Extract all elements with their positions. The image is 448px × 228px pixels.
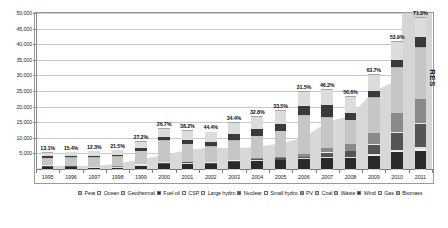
bar-segment	[228, 123, 240, 134]
bar-group[interactable]: 12.3%	[88, 151, 100, 169]
legend-item[interactable]: Waste	[334, 189, 355, 197]
x-tick-mark	[222, 169, 223, 173]
bar-group[interactable]: 26.7%	[158, 128, 170, 169]
bar-group[interactable]: 63.7%	[368, 74, 380, 169]
bar-group[interactable]: 56.6%	[345, 96, 357, 169]
legend-item[interactable]: Peat	[78, 189, 95, 197]
y-tick-label: 10,000	[0, 135, 32, 141]
x-tick-label: 2002	[205, 174, 217, 180]
x-tick-label: 2009	[368, 174, 380, 180]
legend-swatch-icon	[157, 191, 161, 195]
bar-percent-label: 53.9%	[390, 34, 405, 40]
bar-segment	[298, 92, 310, 106]
x-tick-mark	[176, 169, 177, 173]
chart-root: 5,00010,00015,00020,00025,00030,00035,00…	[0, 0, 448, 228]
bar-group[interactable]: 38.2%	[182, 130, 194, 169]
bar-segment	[158, 129, 170, 137]
legend-item[interactable]: Wind	[357, 189, 375, 197]
x-tick-label: 2010	[391, 174, 403, 180]
legend-label: CSP	[188, 190, 199, 196]
bar-percent-label: 26.7%	[157, 121, 172, 127]
legend-item[interactable]: Large hydro	[201, 189, 235, 197]
bar-group[interactable]: 53.9%	[391, 41, 403, 169]
legend-label: Waste	[341, 190, 356, 196]
x-axis-line	[36, 169, 432, 170]
x-tick-label: 2011	[415, 174, 426, 180]
bar-segment	[321, 118, 333, 149]
bar-segment	[275, 160, 287, 168]
legend-item[interactable]: Biomass	[396, 189, 422, 197]
bar-group[interactable]: 13.1%	[42, 152, 54, 169]
legend-item[interactable]: Gas	[378, 189, 394, 197]
x-tick-label: 2007	[321, 174, 333, 180]
legend-item[interactable]: Coal	[315, 189, 332, 197]
x-tick-label: 1997	[88, 174, 100, 180]
bar-segment	[321, 158, 333, 169]
legend-label: Coal	[322, 190, 333, 196]
bar-segment	[368, 133, 380, 144]
bar-segment	[135, 151, 147, 164]
bar-segment	[391, 133, 403, 150]
legend-swatch-icon	[182, 191, 186, 195]
bar-percent-label: 71.3%	[413, 10, 428, 16]
y-tick-label: 5,000	[0, 150, 32, 156]
bar-segment	[205, 132, 217, 142]
bar-percent-label: 12.3%	[87, 144, 102, 150]
bar-group[interactable]: 34.4%	[228, 122, 240, 169]
legend-label: Nuclear	[244, 190, 262, 196]
bar-segment	[415, 48, 427, 99]
legend-swatch-icon	[396, 191, 400, 195]
bar-segment	[345, 158, 357, 169]
bar-segment	[415, 37, 427, 47]
x-tick-mark	[385, 169, 386, 173]
legend-label: Small hydro	[270, 190, 297, 196]
x-tick-label: 1999	[135, 174, 147, 180]
legend-label: Peat	[85, 190, 96, 196]
x-tick-label: 1996	[65, 174, 77, 180]
legend-item[interactable]: Ocean	[97, 189, 119, 197]
bar-segment	[391, 60, 403, 67]
bar-percent-label: 27.2%	[134, 134, 149, 140]
legend-swatch-icon	[334, 191, 338, 195]
bar-group[interactable]: 21.5%	[112, 150, 124, 169]
bar-percent-label: 38.2%	[180, 123, 195, 129]
legend-item[interactable]: Small hydro	[264, 189, 298, 197]
x-tick-mark	[59, 169, 60, 173]
legend-item[interactable]: Geothermal	[121, 189, 155, 197]
chart-legend: PeatOceanGeothermalFuel oilCSPLarge hydr…	[78, 189, 408, 197]
y-tick-label: 25,000	[0, 88, 32, 94]
bar-segment	[368, 156, 380, 169]
x-tick-mark	[409, 169, 410, 173]
y-tick-label: 30,000	[0, 72, 32, 78]
legend-item[interactable]: CSP	[182, 189, 199, 197]
x-tick-mark	[339, 169, 340, 173]
bar-group[interactable]: 15.4%	[65, 152, 77, 169]
bar-segment	[182, 131, 194, 140]
x-tick-label: 2003	[228, 174, 240, 180]
bar-segment	[298, 116, 310, 154]
x-tick-label: 2004	[251, 174, 263, 180]
bar-group[interactable]: 27.2%	[135, 141, 147, 169]
bar-group[interactable]: 71.3%	[415, 17, 427, 169]
bar-group[interactable]: 46.2%	[321, 89, 333, 169]
bar-group[interactable]: 32.8%	[251, 116, 263, 169]
x-tick-label: 2001	[182, 174, 194, 180]
bar-segment	[228, 141, 240, 160]
legend-swatch-icon	[378, 191, 382, 195]
bar-segment	[368, 75, 380, 92]
x-tick-mark	[83, 169, 84, 173]
bar-segment	[275, 131, 287, 157]
legend-label: Geothermal	[128, 190, 155, 196]
bar-group[interactable]: 44.4%	[205, 131, 217, 169]
legend-item[interactable]: Fuel oil	[157, 189, 180, 197]
bar-group[interactable]: 33.5%	[275, 110, 287, 169]
legend-label: Biomass	[402, 190, 422, 196]
bar-segment	[391, 68, 403, 114]
legend-item[interactable]: PV	[300, 189, 314, 197]
legend-item[interactable]: Nuclear	[237, 189, 261, 197]
legend-swatch-icon	[237, 191, 241, 195]
x-tick-mark	[246, 169, 247, 173]
bar-segment	[158, 141, 170, 162]
x-tick-label: 1998	[112, 174, 124, 180]
bar-group[interactable]: 31.5%	[298, 91, 310, 169]
